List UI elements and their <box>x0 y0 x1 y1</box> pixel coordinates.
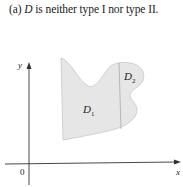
region-diagram: y x 0 D1 D2 <box>0 0 183 187</box>
x-axis <box>5 162 176 164</box>
origin-label: 0 <box>20 167 25 177</box>
x-axis-label: x <box>175 167 180 177</box>
y-axis-arrow-icon <box>27 62 32 69</box>
y-axis-label: y <box>17 60 22 70</box>
x-axis-arrow-icon <box>174 160 181 165</box>
